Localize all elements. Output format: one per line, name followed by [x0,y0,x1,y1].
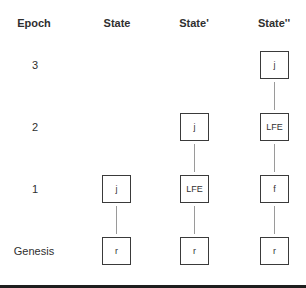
row-label-epoch-1: 1 [5,182,65,196]
header-state-double-prime: State'' [244,16,304,30]
header-state-prime: State' [164,16,224,30]
header-epoch: Epoch [4,16,64,30]
state-prime-connector-lower [194,206,195,234]
state-double-prime-genesis-node: r [260,237,289,265]
state-prime-epoch2-node: j [180,113,209,141]
state-double-prime-connector-3 [274,206,275,234]
state-double-prime-epoch2-node: LFE [260,113,289,141]
state-double-prime-epoch1-node: f [260,175,289,203]
row-label-genesis: Genesis [4,244,64,258]
row-label-epoch-2: 2 [5,120,65,134]
state-double-prime-connector-1 [274,82,275,110]
state-prime-connector-upper [194,144,195,172]
header-state: State [87,16,147,30]
state-epoch1-node: j [102,175,131,203]
state-double-prime-connector-2 [274,144,275,172]
state-connector [116,206,117,234]
state-prime-epoch1-node: LFE [180,175,209,203]
state-prime-genesis-node: r [180,237,209,265]
row-label-epoch-3: 3 [5,58,65,72]
state-double-prime-epoch3-node: j [260,51,289,79]
state-genesis-node: r [102,237,131,265]
